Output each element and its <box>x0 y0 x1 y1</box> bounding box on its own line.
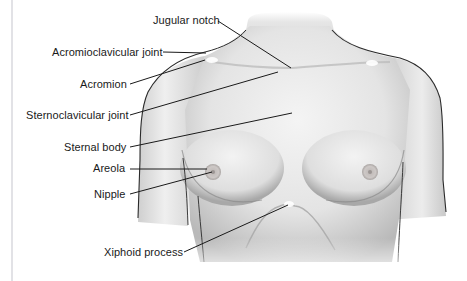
label-xiphoid-process: Xiphoid process <box>104 246 183 259</box>
label-acromioclavicular-joint: Acromioclavicular joint <box>52 46 163 59</box>
label-jugular-notch: Jugular notch <box>153 14 220 27</box>
label-nipple: Nipple <box>94 188 126 201</box>
label-acromion: Acromion <box>80 78 127 91</box>
left-breast-shape <box>180 130 284 206</box>
label-areola: Areola <box>93 162 125 175</box>
diagram-frame: Jugular notch Acromioclavicular joint Ac… <box>0 0 467 281</box>
label-sternal-body: Sternal body <box>64 141 126 154</box>
leader-acromioclavicular-joint <box>163 52 206 53</box>
right-breast-shape <box>302 130 406 206</box>
label-sternoclavicular-joint: Sternoclavicular joint <box>26 109 129 122</box>
